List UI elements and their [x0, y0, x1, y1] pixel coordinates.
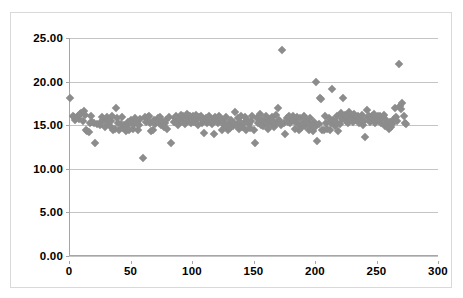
- data-point: [317, 95, 325, 103]
- data-point: [281, 130, 289, 138]
- x-tick-label: 300: [428, 265, 448, 277]
- gridline-y: [69, 212, 438, 213]
- plot-area: [69, 38, 438, 256]
- data-point: [91, 138, 99, 146]
- x-tick-mark: [192, 261, 193, 264]
- y-tick-label: 0.00: [40, 250, 63, 262]
- data-point: [361, 132, 369, 140]
- data-point: [139, 154, 147, 162]
- data-point: [278, 46, 286, 54]
- data-point: [111, 104, 119, 112]
- gridline-y: [69, 38, 438, 39]
- y-tick-label: 25.00: [33, 32, 63, 44]
- data-point: [84, 128, 92, 136]
- x-tick-label: 0: [66, 265, 73, 277]
- x-tick-label: 150: [244, 265, 264, 277]
- y-tick-label: 10.00: [33, 163, 63, 175]
- data-point: [312, 77, 320, 85]
- data-point: [402, 120, 410, 128]
- x-tick-mark: [69, 261, 70, 264]
- data-point: [313, 137, 321, 145]
- data-point: [398, 98, 406, 106]
- x-tick-mark: [377, 261, 378, 264]
- x-axis-tick-labels: 050100150200250300: [69, 261, 438, 279]
- gridline-y: [69, 256, 438, 257]
- chart-figure: 0.005.0010.0015.0020.0025.00 05010015020…: [10, 12, 452, 288]
- data-point: [210, 130, 218, 138]
- y-tick-label: 20.00: [33, 76, 63, 88]
- x-tick-label: 50: [124, 265, 137, 277]
- y-axis-line: [69, 38, 70, 256]
- x-tick-mark: [254, 261, 255, 264]
- x-axis-line: [69, 255, 438, 256]
- data-point: [200, 129, 208, 137]
- gridline-y: [69, 82, 438, 83]
- x-tick-mark: [315, 261, 316, 264]
- data-point: [328, 85, 336, 93]
- data-point: [334, 127, 342, 135]
- x-tick-label: 250: [367, 265, 387, 277]
- data-point: [66, 94, 74, 102]
- x-tick-mark: [131, 261, 132, 264]
- gridline-y: [69, 169, 438, 170]
- y-axis-tick-labels: 0.005.0010.0015.0020.0025.00: [11, 38, 63, 256]
- data-point: [394, 60, 402, 68]
- y-tick-label: 15.00: [33, 119, 63, 131]
- data-point: [250, 138, 258, 146]
- data-point: [167, 138, 175, 146]
- y-tick-label: 5.00: [40, 206, 63, 218]
- x-tick-mark: [438, 261, 439, 264]
- data-point: [339, 94, 347, 102]
- x-tick-label: 200: [305, 265, 325, 277]
- y-tick-mark: [66, 256, 69, 257]
- x-tick-label: 100: [182, 265, 202, 277]
